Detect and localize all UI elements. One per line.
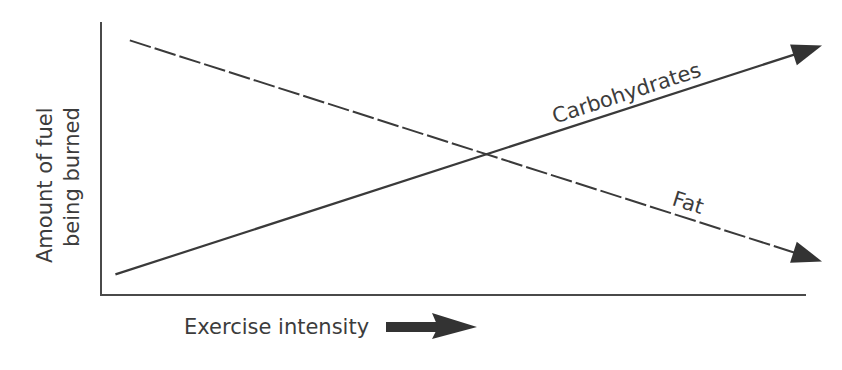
series-label-carbohydrates: Carbohydrates (549, 58, 704, 129)
x-axis-label: Exercise intensity (184, 315, 369, 339)
fuel-usage-chart: Amount of fuel being burned Carbohydrate… (0, 0, 842, 370)
series-line-carbohydrates (115, 54, 797, 275)
arrowhead-fat-icon (790, 242, 822, 263)
y-axis-label-line-1: Amount of fuel (33, 107, 57, 263)
y-axis-label-line-2: being burned (60, 107, 84, 247)
y-axis-label: Amount of fuel being burned (33, 107, 84, 263)
series-layer (115, 40, 822, 274)
x-axis-direction-arrow-icon (386, 313, 477, 339)
arrowhead-carbohydrates-icon (790, 44, 822, 65)
